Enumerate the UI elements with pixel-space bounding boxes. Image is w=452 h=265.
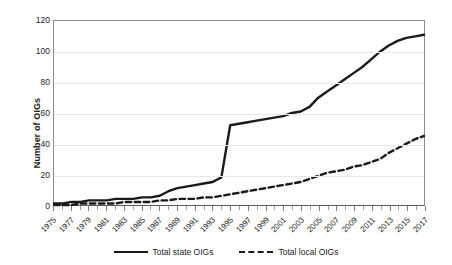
- x-axis-tick-labels: 1975197719791981198319851987198919911993…: [0, 0, 452, 265]
- chart-legend: Total state OIGs Total local OIGs: [0, 247, 452, 257]
- legend-label: Total local OIGs: [278, 247, 338, 257]
- dashed-line-swatch-icon: [239, 251, 273, 253]
- chart-figure: Number of OIGs 020406080100120 197519771…: [0, 0, 452, 265]
- legend-label: Total state OIGs: [153, 247, 214, 257]
- solid-line-swatch-icon: [114, 251, 148, 253]
- legend-item-total-local-oigs[interactable]: Total local OIGs: [239, 247, 338, 257]
- legend-item-total-state-oigs[interactable]: Total state OIGs: [114, 247, 214, 257]
